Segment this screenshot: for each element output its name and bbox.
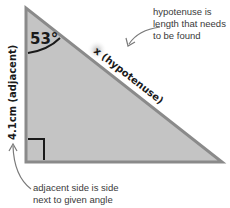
diagram-canvas: 53° x (hypotenuse) 4.1cm (adjacent) hypo…: [0, 0, 230, 208]
adjacent-note-line: next to given angle: [33, 194, 153, 206]
angle-label: 53°: [30, 30, 58, 48]
hypotenuse-note-line: to be found: [153, 30, 229, 42]
adjacent-label: 4.1cm (adjacent): [7, 45, 18, 140]
adjacent-note: adjacent side is side next to given angl…: [33, 182, 153, 206]
hypotenuse-note: hypotenuse is length that needs to be fo…: [153, 6, 229, 42]
hypotenuse-note-line: hypotenuse is: [153, 6, 229, 18]
adjacent-note-line: adjacent side is side: [33, 182, 153, 194]
hypotenuse-note-line: length that needs: [153, 18, 229, 30]
